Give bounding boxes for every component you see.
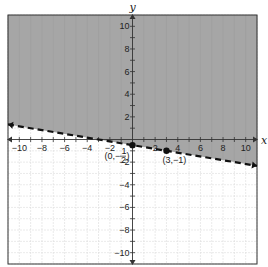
svg-text:8: 8 xyxy=(124,44,129,54)
svg-text:−6: −6 xyxy=(59,143,69,153)
svg-text:4: 4 xyxy=(175,143,180,153)
x-axis-label: x xyxy=(261,134,268,147)
svg-text:2: 2 xyxy=(121,155,126,165)
svg-text:−8: −8 xyxy=(119,225,129,235)
svg-text:4: 4 xyxy=(124,89,129,99)
svg-text:(0,−: (0,− xyxy=(105,151,121,161)
svg-text:(3,−1): (3,−1) xyxy=(162,155,186,165)
svg-text:−6: −6 xyxy=(119,202,129,212)
inequality-graph: −10−8−6−4−2246810108642−2−4−6−8−10 (0,−1… xyxy=(0,0,268,267)
svg-text:−4: −4 xyxy=(82,143,92,153)
svg-text:6: 6 xyxy=(198,143,203,153)
y-axis-label: y xyxy=(129,1,137,14)
svg-text:−10: −10 xyxy=(114,248,129,258)
svg-text:10: 10 xyxy=(119,21,129,31)
svg-text:10: 10 xyxy=(241,143,251,153)
svg-text:2: 2 xyxy=(124,112,129,122)
svg-text:6: 6 xyxy=(124,67,129,77)
svg-text:−8: −8 xyxy=(37,143,47,153)
svg-text:2: 2 xyxy=(153,143,158,153)
svg-text:8: 8 xyxy=(221,143,226,153)
svg-text:): ) xyxy=(127,151,130,161)
svg-text:−4: −4 xyxy=(119,180,129,190)
svg-text:−10: −10 xyxy=(12,143,27,153)
